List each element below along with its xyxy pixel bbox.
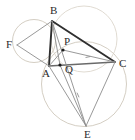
point-label-P: P (64, 35, 70, 47)
point-dot-P (61, 48, 64, 51)
point-labels-layer: BFACPQE (6, 4, 126, 140)
point-label-C: C (119, 57, 126, 69)
point-label-Q: Q (65, 63, 73, 75)
tick-on-QE (77, 93, 79, 98)
segment-BC (52, 21, 115, 62)
point-dot-Q (58, 63, 61, 66)
point-label-E: E (84, 128, 91, 140)
point-label-F: F (6, 38, 12, 50)
figure-canvas: BFACPQE (0, 0, 135, 140)
point-label-A: A (42, 67, 50, 79)
segment-AE (49, 66, 86, 126)
segment-QE (60, 65, 86, 126)
tick-marks-layer (77, 56, 90, 97)
geometry-figure: BFACPQE (0, 0, 135, 140)
point-label-B: B (50, 4, 57, 16)
segment-FB (17, 21, 52, 45)
tick-on-PC (86, 56, 91, 57)
circumcircle-ACE (42, 42, 127, 127)
